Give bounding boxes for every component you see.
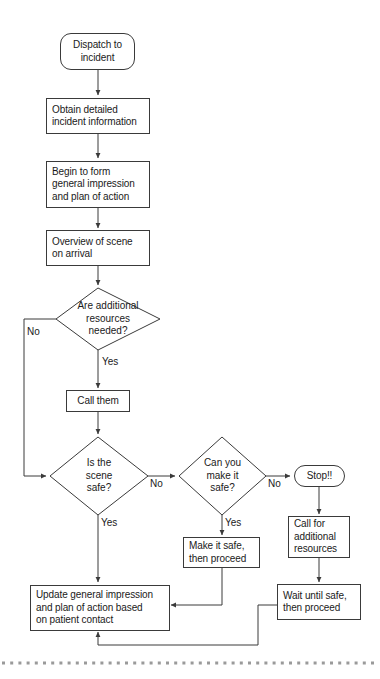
node-text: Wait until safe, then proceed xyxy=(283,590,347,615)
node-stop[interactable]: Stop!! xyxy=(294,465,345,487)
edge-label-scenesafe-no: No xyxy=(150,478,163,489)
node-call-for-additional-resources[interactable]: Call for additional resources xyxy=(288,516,350,558)
node-dispatch-to-incident[interactable]: Dispatch to incident xyxy=(60,33,135,70)
node-text: Dispatch to incident xyxy=(73,39,122,64)
node-obtain-detailed-incident-information[interactable]: Obtain detailed incident information xyxy=(46,98,150,134)
node-text: Update general impression and plan of ac… xyxy=(36,589,153,627)
node-text: Overview of scene on arrival xyxy=(52,236,133,261)
node-text: Obtain detailed incident information xyxy=(52,104,137,129)
node-is-the-scene-safe[interactable] xyxy=(50,437,148,515)
node-text: Begin to form general impression and pla… xyxy=(52,166,135,204)
node-wait-until-safe-then-proceed[interactable]: Wait until safe, then proceed xyxy=(277,584,361,620)
node-update-general-impression[interactable]: Update general impression and plan of ac… xyxy=(30,585,170,631)
node-call-them[interactable]: Call them xyxy=(66,390,130,412)
node-begin-to-form-general-impression[interactable]: Begin to form general impression and pla… xyxy=(46,161,150,208)
edge-label-scenesafe-yes: Yes xyxy=(101,517,117,528)
edge-makeitsafe-update xyxy=(171,568,222,605)
node-text: Stop!! xyxy=(307,470,333,483)
node-can-you-make-it-safe[interactable] xyxy=(179,437,266,515)
edge-label-canmakesafe-no: No xyxy=(268,478,281,489)
node-make-it-safe-then-proceed[interactable]: Make it safe, then proceed xyxy=(183,537,260,568)
node-overview-of-scene-on-arrival[interactable]: Overview of scene on arrival xyxy=(46,230,150,266)
node-are-additional-resources-needed[interactable] xyxy=(56,288,160,350)
edge-label-resources-no: No xyxy=(27,326,40,337)
edge-label-resources-yes: Yes xyxy=(102,356,118,367)
node-text: Call them xyxy=(77,395,118,408)
edge-label-canmakesafe-yes: Yes xyxy=(225,517,241,528)
node-text: Make it safe, then proceed xyxy=(189,540,246,565)
node-text: Call for additional resources xyxy=(294,518,337,556)
